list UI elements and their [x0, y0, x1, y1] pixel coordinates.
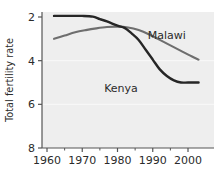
plot-area-background	[42, 12, 214, 148]
series-label-kenya: Kenya	[104, 82, 138, 95]
chart-container: 8642 19601970198019902000 Total fertilit…	[0, 0, 223, 177]
y-tick-label: 2	[28, 11, 35, 24]
y-axis-tick-labels: 8642	[28, 11, 35, 155]
x-tick-label: 1980	[104, 154, 132, 167]
x-tick-label: 1990	[139, 154, 167, 167]
fertility-rate-line-chart: 8642 19601970198019902000 Total fertilit…	[0, 0, 223, 177]
x-axis-tick-labels: 19601970198019902000	[33, 154, 202, 167]
y-tick-label: 6	[28, 98, 35, 111]
y-axis-title: Total fertility rate	[4, 38, 15, 123]
y-tick-label: 4	[28, 55, 35, 68]
x-tick-label: 1960	[33, 154, 61, 167]
x-axis-ticks	[47, 148, 188, 152]
x-tick-label: 2000	[174, 154, 202, 167]
x-tick-label: 1970	[68, 154, 96, 167]
series-label-malawi: Malawi	[148, 29, 186, 42]
